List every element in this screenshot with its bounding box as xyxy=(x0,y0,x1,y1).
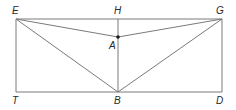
segment-EA xyxy=(16,19,118,37)
label-A: A xyxy=(108,40,116,51)
segment-EB xyxy=(16,19,118,92)
segment-GA xyxy=(118,19,222,37)
segment-GB xyxy=(118,19,222,92)
geometry-diagram: E H G A T B D xyxy=(0,0,236,110)
segments xyxy=(16,19,222,92)
label-B: B xyxy=(114,95,121,106)
label-H: H xyxy=(114,5,122,16)
label-G: G xyxy=(216,5,224,16)
point-A xyxy=(116,35,120,39)
label-T: T xyxy=(12,95,19,106)
label-E: E xyxy=(12,5,19,16)
label-D: D xyxy=(216,95,223,106)
